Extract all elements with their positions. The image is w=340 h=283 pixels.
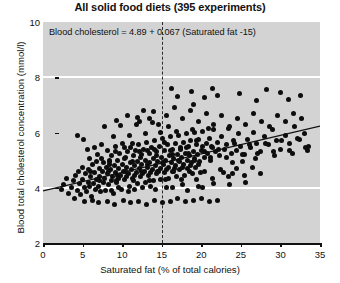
x-tick-mark-5 <box>83 243 85 247</box>
y-tick-mark-6 <box>55 133 59 135</box>
data-point <box>109 178 114 183</box>
data-point <box>195 152 200 157</box>
data-point <box>157 144 162 149</box>
data-point <box>221 170 226 175</box>
data-point <box>186 151 191 156</box>
x-tick-label-5: 5 <box>71 249 95 260</box>
data-point <box>139 169 144 174</box>
data-point <box>94 159 99 164</box>
data-point <box>174 129 179 134</box>
data-point <box>105 148 110 153</box>
data-point <box>216 147 221 152</box>
x-tick-mark-30 <box>280 243 282 247</box>
regression-equation-annotation: Blood cholesterol = 4.89 + 0.067 (Satura… <box>49 27 256 37</box>
data-point <box>144 202 149 207</box>
data-point <box>113 144 118 149</box>
chart-figure: All solid food diets (395 experiments) B… <box>0 0 340 283</box>
data-point <box>85 147 90 152</box>
data-point <box>192 158 197 163</box>
data-point <box>210 176 215 181</box>
data-point <box>181 140 186 145</box>
x-axis-line <box>43 243 320 245</box>
data-point <box>96 184 101 189</box>
data-point <box>250 165 255 170</box>
x-tick-mark-0 <box>43 243 45 247</box>
data-point <box>153 187 158 192</box>
data-point <box>156 122 161 127</box>
page-title: All solid food diets (395 experiments) <box>0 1 340 13</box>
data-point <box>208 155 213 160</box>
data-point <box>134 122 139 127</box>
data-point <box>196 119 201 124</box>
data-point <box>66 191 71 196</box>
data-point <box>215 140 220 145</box>
data-point <box>283 133 288 138</box>
data-point <box>259 119 264 124</box>
data-point <box>130 159 135 164</box>
data-point <box>232 141 237 146</box>
data-point <box>240 152 245 157</box>
regression-line <box>43 22 320 243</box>
data-point <box>299 116 304 121</box>
x-tick-label-25: 25 <box>229 249 253 260</box>
data-point <box>215 198 220 203</box>
data-point <box>291 111 296 116</box>
data-point <box>202 149 207 154</box>
data-point <box>141 108 146 113</box>
data-point <box>109 188 114 193</box>
data-point <box>151 109 156 114</box>
data-point <box>163 177 168 182</box>
x-tick-mark-20 <box>201 243 203 247</box>
data-point <box>115 158 120 163</box>
data-point <box>187 169 192 174</box>
data-point <box>264 87 269 92</box>
data-point <box>114 118 119 123</box>
x-tick-label-20: 20 <box>189 249 213 260</box>
data-point <box>243 122 248 127</box>
data-point <box>245 137 250 142</box>
data-point <box>144 140 149 145</box>
data-point <box>155 169 160 174</box>
data-point <box>243 180 248 185</box>
data-point <box>80 177 85 182</box>
data-point <box>123 169 128 174</box>
y-tick-mark-8 <box>55 77 59 79</box>
data-point <box>127 184 132 189</box>
data-point <box>116 166 121 171</box>
x-axis-title: Saturated fat (% of total calories) <box>0 264 340 275</box>
data-point <box>290 151 295 156</box>
x-tick-mark-10 <box>122 243 124 247</box>
data-point <box>64 176 69 181</box>
data-point <box>283 119 288 124</box>
data-point <box>251 130 256 135</box>
data-point <box>152 198 157 203</box>
x-tick-label-0: 0 <box>31 249 55 260</box>
x-tick-mark-15 <box>162 243 164 247</box>
data-point <box>122 156 127 161</box>
data-point <box>135 115 140 120</box>
data-point <box>200 144 205 149</box>
data-point <box>81 137 86 142</box>
data-point <box>298 93 303 98</box>
data-point <box>171 169 176 174</box>
data-point <box>251 111 256 116</box>
data-point <box>224 155 229 160</box>
data-point <box>103 188 108 193</box>
data-point <box>278 90 283 95</box>
data-point <box>136 199 141 204</box>
data-point <box>215 93 220 98</box>
data-point <box>229 151 234 156</box>
data-point <box>278 147 283 152</box>
y-tick-mark-4 <box>55 188 59 190</box>
x-tick-label-15: 15 <box>150 249 174 260</box>
data-point <box>185 188 190 193</box>
data-point <box>206 126 211 131</box>
x-tick-label-10: 10 <box>110 249 134 260</box>
data-point <box>59 187 64 192</box>
data-point <box>102 176 107 181</box>
data-point <box>173 141 178 146</box>
data-point <box>204 111 209 116</box>
data-point <box>234 148 239 153</box>
data-point <box>169 86 174 91</box>
data-point <box>240 159 245 164</box>
